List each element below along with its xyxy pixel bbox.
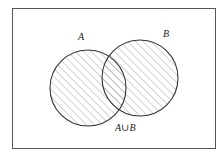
set-a-label: A	[77, 31, 85, 42]
set-b-label: B	[163, 28, 169, 39]
union-shading	[50, 40, 178, 126]
union-label: A∪B	[114, 122, 136, 133]
venn-diagram: A B A∪B	[0, 0, 224, 159]
